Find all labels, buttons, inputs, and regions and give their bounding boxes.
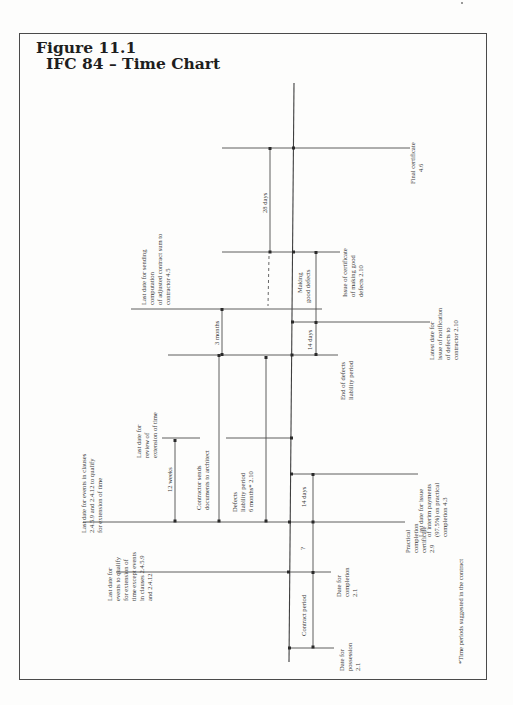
svg-text:Defects: Defects (231, 491, 238, 512)
svg-text:Last date for issue: Last date for issue (417, 489, 424, 537)
label-date-completion: Date for completion 2.1 (335, 567, 358, 597)
svg-text:liability period: liability period (239, 472, 246, 512)
page: Figure 11.1 IFC 84 – Time Chart (0, 0, 513, 705)
label-14-days-lower: 14 days (300, 486, 307, 507)
svg-text:2.1: 2.1 (351, 589, 358, 597)
dashed-link (268, 256, 269, 306)
label-defects-liability: Defects liability period 6 months* 2.10 (231, 470, 254, 512)
svg-text:Final certificate: Final certificate (409, 142, 416, 184)
svg-text:12 weeks: 12 weeks (166, 467, 173, 492)
label-events-in-clauses: Last date for events in clauses 2.4.5.9 … (80, 453, 103, 533)
svg-text:for extension of: for extension of (122, 558, 129, 601)
svg-text:liability period: liability period (347, 360, 354, 400)
svg-text:2.9: 2.9 (428, 544, 435, 553)
label-12-weeks: 12 weeks (166, 467, 173, 492)
svg-text:computation: computation (148, 271, 155, 305)
svg-text:Last date for: Last date for (135, 424, 142, 458)
label-final-certificate: Final certificate 4.6 (409, 142, 424, 184)
label-3-months: 3 months (213, 320, 220, 345)
label-unknown-period: ? (299, 547, 306, 550)
footnote: *Time periods suggested in the contract (457, 559, 464, 664)
svg-text:Last date for sending: Last date for sending (140, 249, 147, 305)
label-14-days-upper: 14 days (306, 329, 313, 350)
svg-text:(97.5%) on practical: (97.5%) on practical (433, 483, 441, 537)
svg-text:for extension of time: for extension of time (96, 478, 103, 533)
svg-text:28 days: 28 days (261, 192, 268, 213)
svg-text:possession: possession (346, 642, 353, 671)
svg-text:in clauses 2.4.5.9: in clauses 2.4.5.9 (138, 555, 145, 601)
svg-text:Contractor sends: Contractor sends (195, 465, 202, 510)
svg-text:Date for: Date for (335, 574, 342, 597)
svg-text:of adjusted contract sum to: of adjusted contract sum to (156, 233, 163, 305)
svg-text:good defects: good defects (304, 269, 311, 303)
time-chart-diagram: Date for possession 2.1 Date for complet… (0, 0, 513, 705)
label-computation: Last date for sending computation of adj… (140, 233, 171, 305)
svg-text:2.4.5.9 and 2.4.12 to qualify: 2.4.5.9 and 2.4.12 to qualify (88, 458, 95, 533)
svg-text:2.1: 2.1 (354, 663, 361, 671)
svg-text:*Time periods suggested in the: *Time periods suggested in the contract (457, 559, 464, 664)
svg-text:extension of time: extension of time (151, 412, 158, 458)
label-making-good-defects: Making good defects (296, 269, 311, 303)
svg-text:events to qualify: events to qualify (114, 556, 121, 601)
label-end-defects: End of defects liability period (339, 360, 354, 400)
svg-text:Practical: Practical (404, 530, 411, 553)
svg-text:Latest date for: Latest date for (428, 321, 435, 360)
svg-text:completion: completion (343, 567, 350, 597)
svg-text:Date for: Date for (338, 648, 345, 671)
svg-text:End of defects: End of defects (339, 361, 346, 400)
svg-text:3 months: 3 months (213, 320, 220, 345)
svg-text:Issue of certificate: Issue of certificate (341, 248, 348, 297)
label-contractor-sends-docs: Contractor sends documents to architect (195, 450, 210, 510)
svg-text:Last date for events in clause: Last date for events in clauses (80, 453, 87, 533)
label-28-days: 28 days (261, 192, 268, 213)
svg-text:Contract period: Contract period (300, 594, 307, 636)
svg-text:completion 4.3: completion 4.3 (441, 497, 448, 537)
arrow-heads (174, 147, 318, 650)
svg-text:14 days: 14 days (306, 329, 313, 350)
svg-text:4.6: 4.6 (417, 163, 424, 172)
svg-text:defects 2.10: defects 2.10 (357, 264, 364, 297)
svg-text:?: ? (299, 547, 306, 550)
svg-text:contractor 2.10: contractor 2.10 (452, 319, 459, 360)
svg-text:time except events: time except events (130, 551, 137, 601)
svg-text:review of: review of (143, 432, 150, 458)
label-contract-period: Contract period (300, 594, 307, 636)
label-making-good-certificate: Issue of certificate of making good defe… (341, 248, 364, 297)
svg-text:14 days: 14 days (300, 486, 307, 507)
svg-text:Making: Making (296, 272, 303, 293)
label-events-except-clauses: Last date for events to qualify for exte… (106, 551, 153, 601)
svg-text:contractor 4.5: contractor 4.5 (164, 268, 171, 305)
svg-text:Last date for: Last date for (106, 567, 113, 601)
main-time-axis (289, 83, 294, 662)
svg-text:issue of notification: issue of notification (436, 307, 443, 360)
svg-text:of defects to: of defects to (444, 327, 451, 360)
svg-text:documents to architect: documents to architect (203, 450, 210, 510)
label-notification-defects: Latest date for issue of notification of… (428, 307, 459, 360)
svg-text:and 2.4.12: and 2.4.12 (146, 573, 153, 601)
svg-text:of making good: of making good (349, 255, 356, 297)
label-review-eot: Last date for review of extension of tim… (135, 412, 158, 458)
label-interim-payments: Last date for issue of interim payments … (417, 483, 448, 537)
label-date-possession: Date for possession 2.1 (338, 642, 361, 671)
svg-text:6 months* 2.10: 6 months* 2.10 (247, 470, 254, 512)
svg-text:of interim payments: of interim payments (425, 483, 432, 537)
